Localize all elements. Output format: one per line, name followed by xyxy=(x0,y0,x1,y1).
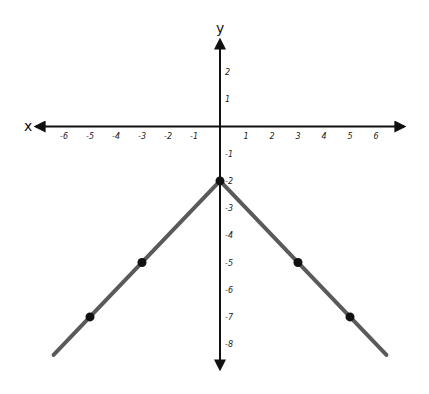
y-tick-label: -8 xyxy=(225,340,233,349)
x-tick-label: -4 xyxy=(112,132,120,141)
x-tick-label: 3 xyxy=(295,132,300,141)
data-point xyxy=(216,176,225,185)
y-tick-label: -6 xyxy=(225,286,233,295)
y-tick-label: -4 xyxy=(225,231,233,240)
x-tick-label: -1 xyxy=(190,132,198,141)
y-tick-label: 1 xyxy=(225,95,230,104)
y-tick-label: -7 xyxy=(225,313,234,322)
x-tick-label: -3 xyxy=(138,132,146,141)
y-axis-label: y xyxy=(216,20,224,36)
data-point xyxy=(86,312,95,321)
x-tick-label: -5 xyxy=(86,132,94,141)
y-tick-label: 2 xyxy=(225,68,230,77)
y-tick-label: -5 xyxy=(225,259,233,268)
data-point xyxy=(346,312,355,321)
data-point xyxy=(138,258,147,267)
x-axis-label: x xyxy=(24,118,32,134)
y-tick-label: -1 xyxy=(225,150,233,159)
x-tick-label: 4 xyxy=(321,132,326,141)
x-tick-label: 5 xyxy=(347,132,352,141)
y-tick-label: -3 xyxy=(225,204,233,213)
x-tick-label: -6 xyxy=(60,132,68,141)
x-tick-label: -2 xyxy=(164,132,172,141)
x-tick-label: 2 xyxy=(269,132,274,141)
graph-canvas: -6-5-4-3-2-112345621-1-2-3-4-5-6-7-8 x y xyxy=(0,0,429,394)
x-tick-label: 1 xyxy=(243,132,248,141)
data-point xyxy=(294,258,303,267)
x-tick-label: 6 xyxy=(373,132,378,141)
